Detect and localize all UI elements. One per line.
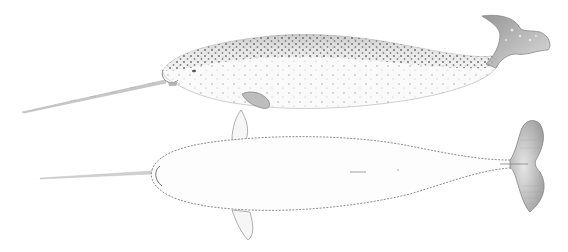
flipper-dorsal-lower — [232, 210, 253, 240]
narwhal-lateral-view — [22, 15, 550, 115]
narwhal-dorsal-view — [40, 110, 544, 240]
narwhal-illustration — [0, 0, 568, 252]
illustration-plate — [0, 0, 568, 252]
tail-fluke-lateral — [482, 15, 550, 68]
tail-fluke-dorsal — [510, 121, 544, 212]
eye-lateral — [192, 70, 196, 72]
tusk-dorsal — [40, 171, 152, 179]
flipper-dorsal-upper — [232, 110, 248, 140]
body-dorsal — [151, 137, 520, 211]
